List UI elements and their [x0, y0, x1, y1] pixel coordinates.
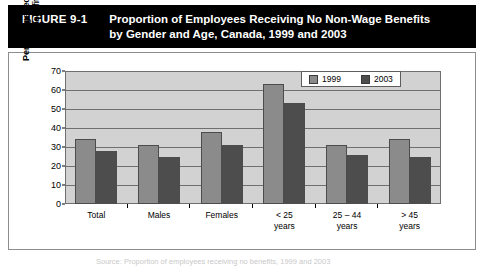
legend-label: 2003 — [374, 74, 393, 84]
x-axis-category-label: Males — [128, 210, 191, 232]
y-axis-tick-label: 10 — [51, 180, 61, 190]
legend-label: 1999 — [322, 74, 341, 84]
x-axis-tickmark — [65, 204, 128, 209]
x-axis-labels: TotalMalesFemales< 25years25 – 44years> … — [65, 210, 441, 232]
x-axis-tickmarks — [65, 204, 441, 209]
figure-title-line-2: by Gender and Age, Canada, 1999 and 2003 — [109, 27, 430, 42]
legend-item-2003[interactable]: 2003 — [361, 74, 393, 84]
figure-container: FIGURE 9-1 Proportion of Employees Recei… — [0, 0, 483, 267]
bar-1999[interactable] — [75, 139, 96, 204]
bar-1999[interactable] — [326, 145, 347, 204]
bar-1999[interactable] — [263, 84, 284, 204]
plot-wrapper: 010203040506070 TotalMalesFemales< 25yea… — [65, 71, 441, 204]
y-axis-tick-label: 20 — [51, 161, 61, 171]
x-axis-category-label: Females — [190, 210, 253, 232]
y-axis-title: Percentage receiving no benefits — [21, 0, 41, 75]
x-label-line-1: Total — [65, 210, 128, 221]
chart-legend: 19992003 — [301, 71, 401, 87]
bar-group — [65, 71, 128, 204]
bar-1999[interactable] — [138, 145, 159, 204]
chart-frame: Percentage receiving no benefits 0102030… — [8, 52, 476, 250]
bars-layer — [65, 71, 441, 204]
x-label-line-1: Females — [190, 210, 253, 221]
y-axis-tick-label: 70 — [51, 66, 61, 76]
x-label-line-1: Males — [128, 210, 191, 221]
bar-2003[interactable] — [284, 103, 305, 204]
bar-2003[interactable] — [96, 151, 117, 204]
x-axis-tickmark — [190, 204, 253, 209]
bar-2003[interactable] — [222, 145, 243, 204]
bar-1999[interactable] — [201, 132, 222, 204]
legend-swatch-icon — [361, 75, 370, 84]
x-axis-category-label: > 45years — [378, 210, 441, 232]
legend-swatch-icon — [309, 75, 318, 84]
x-axis-tickmark — [378, 204, 441, 209]
bar-2003[interactable] — [410, 157, 431, 205]
x-label-line-2: years — [253, 221, 316, 232]
banner-inner: FIGURE 9-1 Proportion of Employees Recei… — [8, 12, 430, 42]
bar-2003[interactable] — [159, 157, 180, 205]
figure-title-banner: FIGURE 9-1 Proportion of Employees Recei… — [8, 5, 476, 48]
y-axis-tick-label: 50 — [51, 104, 61, 114]
y-axis-tick-label: 60 — [51, 85, 61, 95]
x-label-line-2: years — [316, 221, 379, 232]
x-axis-category-label: < 25years — [253, 210, 316, 232]
x-axis-tickmark — [253, 204, 316, 209]
x-axis-tickmark — [128, 204, 191, 209]
x-label-line-1: 25 – 44 — [316, 210, 379, 221]
y-axis-tick-label: 30 — [51, 142, 61, 152]
figure-title-line-1: Proportion of Employees Receiving No Non… — [109, 12, 430, 27]
bar-1999[interactable] — [389, 139, 410, 204]
x-axis-tickmark — [316, 204, 379, 209]
bar-group — [128, 71, 191, 204]
y-axis-tick-label: 0 — [56, 199, 61, 209]
legend-item-1999[interactable]: 1999 — [309, 74, 341, 84]
x-label-line-1: < 25 — [253, 210, 316, 221]
y-axis-tick-label: 40 — [51, 123, 61, 133]
x-label-line-2: years — [378, 221, 441, 232]
figure-title: Proportion of Employees Receiving No Non… — [109, 12, 430, 42]
x-label-line-1: > 45 — [378, 210, 441, 221]
x-axis-category-label: Total — [65, 210, 128, 232]
bar-group — [378, 71, 441, 204]
bar-2003[interactable] — [347, 155, 368, 204]
bar-group — [190, 71, 253, 204]
x-axis-category-label: 25 – 44years — [316, 210, 379, 232]
bar-group — [316, 71, 379, 204]
figure-caption: Source: Proportion of employees receivin… — [96, 257, 330, 266]
bar-group — [253, 71, 316, 204]
